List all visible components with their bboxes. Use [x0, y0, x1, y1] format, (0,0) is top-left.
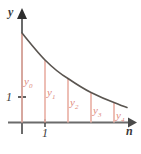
ordinate-label-y4-sub: 4 — [121, 116, 125, 124]
y-axis-label: y — [8, 6, 13, 18]
ordinate-label-y3: y3 — [93, 105, 101, 119]
ordinate-label-y4: y4 — [116, 110, 124, 124]
ordinate-label-y1: y1 — [47, 87, 55, 101]
ordinate-label-y3-sub: 3 — [98, 111, 102, 119]
x-axis-tick-label-1: 1 — [42, 127, 48, 139]
diagram-canvas — [0, 0, 141, 154]
ordinate-label-y1-sub: 1 — [52, 93, 56, 101]
y-axis-arrowhead — [17, 8, 27, 19]
ordinate-label-y2-sub: 2 — [75, 103, 79, 111]
y-axis-tick-label-1: 1 — [6, 91, 12, 103]
ordinate-label-y2: y2 — [70, 97, 78, 111]
ordinate-label-y0: y0 — [24, 76, 32, 90]
ordinate-label-y0-sub: 0 — [29, 82, 33, 90]
integral-test-diagram: y n 1 1 y0 y1 y2 y3 y4 — [0, 0, 141, 154]
x-axis-label: n — [126, 125, 133, 137]
